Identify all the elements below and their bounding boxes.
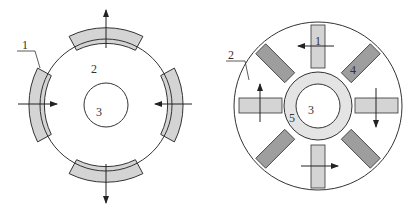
label-rotor: 2 [228,48,234,62]
label-magnet: 1 [315,34,321,48]
left-figure: 1 2 3 [17,10,192,203]
shaft-circle [84,83,128,127]
label-rotor: 2 [91,62,97,76]
label-sleeve: 5 [289,111,295,125]
pole-piece-sw [256,129,295,168]
pole-piece-nw [256,44,295,83]
right-figure: 2 1 4 3 5 [226,22,402,190]
label-magnet: 1 [22,38,28,52]
pole-piece-ne [341,44,380,83]
diagram-canvas: 1 2 3 2 1 4 3 5 [0,0,417,209]
leader-line-2 [226,61,249,80]
label-pole-piece: 4 [350,63,356,77]
pole-piece-se [341,129,380,168]
shaft-circle [296,84,340,128]
label-shaft: 3 [96,105,102,119]
leader-line-1 [17,51,40,68]
label-shaft: 3 [308,103,314,117]
